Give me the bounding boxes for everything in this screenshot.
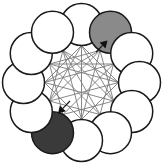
circular-node-diagram (0, 0, 163, 165)
node-circle-top-left[interactable] (32, 11, 74, 53)
diagram-root (0, 0, 163, 165)
